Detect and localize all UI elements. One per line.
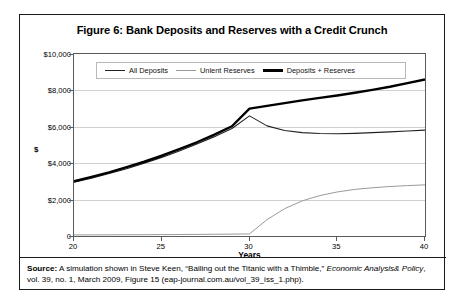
source-text-1: A simulation shown in Steve Keen, “Baili… — [57, 264, 326, 273]
series-lines — [74, 54, 425, 236]
x-tick-mark — [73, 237, 74, 241]
series-line — [74, 185, 425, 235]
x-tick-mark — [249, 237, 250, 241]
x-tick-label: 40 — [420, 242, 428, 251]
x-tick-label: 25 — [157, 242, 165, 251]
legend-swatch-icon — [263, 69, 283, 71]
legend-swatch-icon — [105, 70, 125, 71]
figure-container: Figure 6: Bank Deposits and Reserves wit… — [19, 14, 445, 290]
y-tick-label: $8,000 — [48, 86, 71, 95]
x-tick-label: 20 — [69, 242, 77, 251]
x-tick-label: 35 — [332, 242, 340, 251]
series-line — [74, 116, 425, 182]
x-tick-label: 30 — [244, 242, 252, 251]
y-tick-label: $2,000 — [48, 195, 71, 204]
x-tick-mark — [336, 237, 337, 241]
series-line — [74, 79, 425, 181]
y-tick-label: $6,000 — [48, 122, 71, 131]
chart-area: 0$2,000$4,000$6,000$8,000$10,000 $ All D… — [20, 41, 446, 259]
source-line: Source: A simulation shown in Steve Keen… — [27, 263, 439, 285]
x-tick-mark — [424, 237, 425, 241]
figure-title: Figure 6: Bank Deposits and Reserves wit… — [20, 24, 444, 36]
y-axis-title: $ — [34, 145, 38, 154]
legend-item[interactable]: Deposits + Reserves — [255, 66, 355, 75]
source-italic-2: & Policy — [394, 264, 423, 273]
chart-legend: All DepositsUnlent ReservesDeposits + Re… — [96, 62, 406, 79]
legend-label: All Deposits — [129, 66, 168, 75]
legend-item[interactable]: All Deposits — [97, 66, 168, 75]
legend-label: Deposits + Reserves — [287, 66, 355, 75]
legend-swatch-icon — [176, 70, 196, 71]
source-italic-1: Economic Analysis — [326, 264, 394, 273]
y-tick-label: $4,000 — [48, 159, 71, 168]
legend-item[interactable]: Unlent Reserves — [168, 66, 255, 75]
figure-source-note: Source: A simulation shown in Steve Keen… — [20, 257, 446, 289]
x-tick-mark — [161, 237, 162, 241]
x-axis-ticks: Years 2025303540 — [73, 237, 426, 259]
y-tick-label: $10,000 — [44, 50, 71, 59]
legend-label: Unlent Reserves — [200, 66, 255, 75]
y-axis-ticks: 0$2,000$4,000$6,000$8,000$10,000 — [20, 53, 71, 237]
source-label: Source: — [27, 264, 57, 273]
plot-area: All DepositsUnlent ReservesDeposits + Re… — [73, 53, 426, 237]
